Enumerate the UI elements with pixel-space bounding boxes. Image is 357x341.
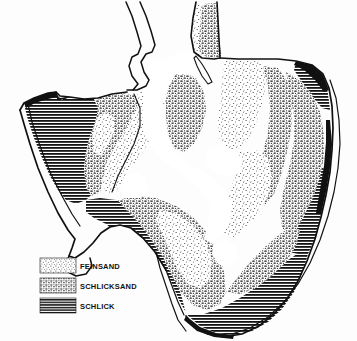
- legend-label-feinsand: FEINSAND: [80, 262, 120, 271]
- north-inlet-channel-west-bank: [126, 2, 141, 90]
- zone-feinsand-northeast-flats: [218, 60, 266, 150]
- map-svg: FEINSAND SCHLICKSAND SCHLICK: [0, 0, 357, 341]
- sediment-distribution-figure: FEINSAND SCHLICKSAND SCHLICK: [0, 0, 357, 341]
- channel-branch-north: [166, 52, 198, 74]
- legend-item-schlick: SCHLICK: [40, 298, 115, 313]
- zone-schlicksand-central-island: [166, 72, 206, 152]
- legend-item-feinsand: FEINSAND: [40, 258, 120, 273]
- legend-label-schlick: SCHLICK: [80, 302, 115, 311]
- legend-label-schlicksand: SCHLICKSAND: [80, 282, 137, 291]
- legend: FEINSAND SCHLICKSAND SCHLICK: [40, 258, 137, 313]
- legend-swatch-feinsand: [40, 258, 76, 273]
- legend-swatch-schlicksand: [40, 278, 76, 293]
- legend-item-schlicksand: SCHLICKSAND: [40, 278, 137, 293]
- legend-swatch-schlick: [40, 298, 76, 313]
- channel-branch-east: [206, 146, 242, 176]
